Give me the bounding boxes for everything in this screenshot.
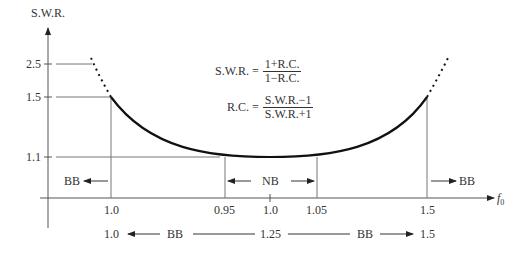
x-tick-0.95: 0.95: [214, 203, 235, 217]
y-tick-1.1: 1.1: [26, 150, 41, 164]
swr-diagram: [0, 0, 524, 253]
formula-swr: S.W.R. = 1+R.C. 1−R.C.: [215, 58, 301, 85]
x-tick-1.0-left: 1.0: [104, 203, 119, 217]
nb-label: NB: [262, 174, 279, 188]
bb-right-label: BB: [459, 174, 475, 188]
bb-left-label: BB: [64, 174, 80, 188]
swr-curve-dotted-left: [91, 58, 111, 97]
x-tick-1.05: 1.05: [306, 203, 327, 217]
y-tick-2.5: 2.5: [26, 57, 41, 71]
bottom-scale-bb-left: BB: [167, 227, 183, 241]
swr-curve-dotted-right: [427, 58, 448, 97]
x-axis-label: f0: [497, 191, 504, 210]
x-tick-1.0-center: 1.0: [263, 203, 278, 217]
bottom-scale-bb-right: BB: [357, 227, 373, 241]
formula-rc: R.C. = S.W.R.−1 S.W.R.+1: [227, 94, 313, 121]
y-tick-1.5: 1.5: [26, 90, 41, 104]
x-tick-1.5: 1.5: [420, 203, 435, 217]
y-axis-label: S.W.R.: [31, 6, 65, 20]
bottom-scale-left: 1.0: [104, 227, 119, 241]
bottom-scale-right: 1.5: [420, 227, 435, 241]
bottom-scale-center: 1.25: [260, 227, 281, 241]
